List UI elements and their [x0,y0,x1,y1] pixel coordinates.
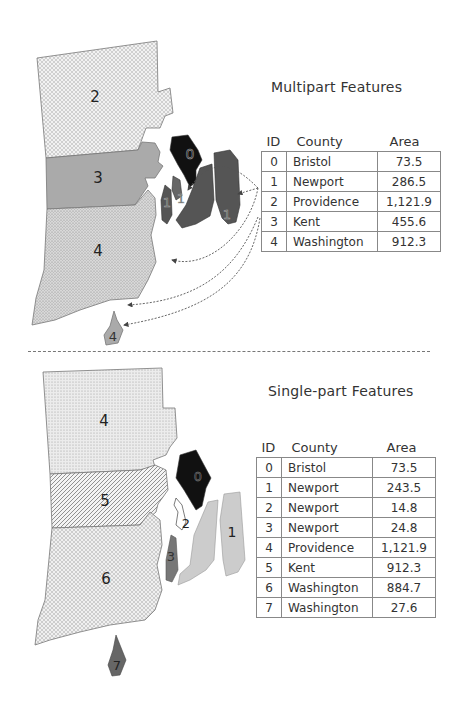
label-washington-6: 6 [101,570,111,588]
label-newport-3: 3 [167,549,175,564]
col-county: County [282,440,373,458]
singlepart-title: Single-part Features [268,383,413,399]
label-newport-a: 1 [223,207,231,222]
section-divider [28,351,430,352]
singlepart-attribute-table: ID County Area 0Bristol73.5 1Newport243.… [256,440,436,618]
multipart-attribute-table: ID County Area 0Bristol73.5 1Newport286.… [261,134,441,252]
label-newport-d: 1 [163,195,171,210]
col-area: Area [378,134,441,152]
label-newport-c: 1 [177,191,185,206]
table-row: 2Providence1,121.9 [262,192,441,212]
table-row: 5Kent912.3 [257,558,436,578]
table-row: 3Newport24.8 [257,518,436,538]
providence-county [37,41,173,158]
table-row: 4Washington912.3 [262,232,441,252]
table-row: 6Washington884.7 [257,578,436,598]
label-kent: 3 [93,169,103,187]
label-newport-2: 2 [182,516,190,531]
table-row: 1Newport243.5 [257,478,436,498]
table-row: 7Washington27.6 [257,598,436,618]
table-row: 2Newport14.8 [257,498,436,518]
providence-county-4 [43,368,177,474]
label-block-island-7: 7 [113,658,121,673]
col-area: Area [373,440,436,458]
washington-county-6 [35,512,162,645]
multipart-title: Multipart Features [271,79,402,95]
label-bristol-0: 0 [194,469,202,484]
label-kent-5: 5 [100,492,110,510]
table-row: 0Bristol73.5 [262,152,441,172]
label-providence: 2 [90,88,100,106]
table-row: 3Kent455.6 [262,212,441,232]
col-county: County [287,134,378,152]
multipart-map: 2 3 4 0 1 1 1 4 [32,41,260,345]
table-row: 1Newport286.5 [262,172,441,192]
col-id: ID [262,134,287,152]
label-washington: 4 [93,242,103,260]
singlepart-map: 4 5 6 0 1 2 3 7 [35,368,245,676]
label-block-island: 4 [109,329,117,344]
table-row: 4Providence1,121.9 [257,538,436,558]
label-bristol: 0 [186,146,195,162]
table-row: 0Bristol73.5 [257,458,436,478]
label-providence-4: 4 [99,412,109,430]
col-id: ID [257,440,282,458]
label-newport-1: 1 [228,524,237,540]
